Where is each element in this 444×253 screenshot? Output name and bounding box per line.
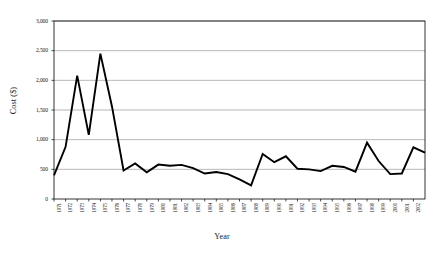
chart-container: Cost ($) Year 3,0002,5002,0001,5001,0005… <box>0 0 444 253</box>
plot-area <box>0 0 444 253</box>
data-series-line <box>54 54 425 186</box>
